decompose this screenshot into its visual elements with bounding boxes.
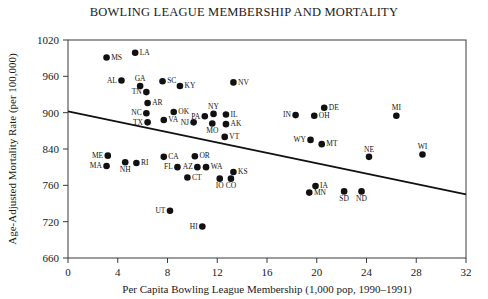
x-axis-tick-label: 0 [65,266,71,278]
data-point-NV[interactable] [230,79,237,86]
data-point-NE[interactable] [366,154,373,161]
data-point-AZ[interactable] [194,164,201,171]
data-point-label-TX: TX [133,118,144,127]
data-point-label-PA: PA [191,112,200,121]
data-point-MA[interactable] [103,163,110,170]
x-axis-tick-label: 28 [411,266,423,278]
data-point-label-MN: MN [314,188,327,197]
data-point-label-FL: FL [164,162,173,171]
data-point-OH[interactable] [311,112,318,119]
data-point-WA[interactable] [203,164,210,171]
data-point-label-AK: AK [231,119,242,128]
data-point-label-NY: NY [208,102,219,111]
data-point-label-WA: WA [211,162,223,171]
data-point-MT[interactable] [318,141,325,148]
y-axis-tick-label: 840 [43,143,60,155]
data-point-WI[interactable] [419,151,426,158]
plot-frame [68,40,466,258]
data-point-label-OK: OK [178,107,189,116]
data-point-label-CT: CT [192,173,202,182]
data-point-label-OR: OR [199,151,209,160]
data-point-LA[interactable] [132,49,139,56]
data-point-NJ[interactable] [190,119,197,126]
data-point-CT[interactable] [184,174,191,181]
chart-figure: BOWLING LEAGUE MEMBERSHIP AND MORTALITY … [0,0,488,299]
data-point-label-ND: ND [356,194,367,203]
data-point-IN[interactable] [292,112,299,119]
data-point-VA[interactable] [160,117,167,124]
data-point-label-WI: WI [418,142,428,151]
x-axis-tick-label: 12 [212,266,223,278]
y-axis-tick-label: 760 [43,179,60,191]
data-point-label-HI: HI [190,222,198,231]
x-axis-title: Per Capita Bowling League Membership (1,… [122,283,412,296]
data-point-label-MT: MT [326,139,338,148]
data-point-PA[interactable] [202,113,209,120]
data-point-IL[interactable] [223,111,230,118]
data-point-label-MA: MA [90,161,103,170]
data-point-label-IL: IL [231,110,238,119]
data-point-KS[interactable] [230,169,237,176]
data-point-AL[interactable] [118,77,125,84]
data-point-label-GA: GA [135,74,146,83]
data-point-label-DE: DE [329,103,339,112]
data-point-label-RI: RI [141,158,149,167]
data-point-label-ME: ME [92,151,104,160]
regression-trend-line [68,111,466,194]
data-point-VT[interactable] [221,134,228,141]
data-point-MN[interactable] [306,189,313,196]
data-point-TX[interactable] [144,119,151,126]
x-axis-tick-label: 32 [461,266,472,278]
data-point-label-AZ: AZ [183,162,193,171]
data-point-label-MS: MS [111,53,122,62]
data-point-MS[interactable] [103,54,110,61]
data-point-label-CO: CO [226,181,237,190]
data-point-FL[interactable] [174,164,181,171]
data-point-NY[interactable] [210,111,217,118]
y-axis-tick-label: 900 [43,107,60,119]
data-point-label-WY: WY [293,135,306,144]
data-point-AR[interactable] [144,100,151,107]
scatter-plot: Per Capita Bowling League Membership (1,… [0,0,488,299]
y-axis-tick-label: 960 [43,70,60,82]
data-point-label-KS: KS [238,167,248,176]
data-point-label-OH: OH [319,111,330,120]
data-point-label-IO: IO [216,181,224,190]
data-point-label-VT: VT [229,132,239,141]
data-point-label-CA: CA [168,152,179,161]
data-point-label-KY: KY [185,81,196,90]
data-point-SC[interactable] [159,78,166,85]
data-point-label-NH: NH [120,165,131,174]
data-point-UT[interactable] [167,207,174,214]
x-axis-tick-label: 24 [361,266,373,278]
data-point-label-NJ: NJ [181,118,189,127]
data-point-OR[interactable] [192,153,199,160]
data-point-KY[interactable] [177,83,184,90]
data-point-label-IN: IN [283,110,291,119]
data-point-AK[interactable] [223,121,230,128]
y-axis-tick-label: 1020 [37,34,60,46]
data-point-ME[interactable] [105,152,112,159]
data-point-MI[interactable] [393,112,400,119]
data-point-label-AL: AL [107,76,117,85]
data-point-label-LA: LA [140,48,151,57]
data-point-label-SC: SC [167,76,176,85]
data-point-label-TN: TN [132,87,143,96]
y-axis-tick-label: 660 [43,252,60,264]
data-point-WY[interactable] [307,137,314,144]
data-point-RI[interactable] [133,160,140,167]
data-point-NC[interactable] [143,110,150,117]
data-point-label-NE: NE [364,145,374,154]
x-axis-tick-label: 8 [165,266,171,278]
data-point-label-MO: MO [206,126,219,135]
data-point-label-NV: NV [238,78,249,87]
data-point-CA[interactable] [160,154,167,161]
x-axis-tick-label: 4 [115,266,121,278]
data-point-TN[interactable] [143,89,150,96]
data-point-label-NC: NC [131,108,141,117]
data-point-label-VA: VA [168,115,178,124]
x-axis-tick-label: 20 [311,266,323,278]
x-axis-tick-label: 16 [262,266,274,278]
data-point-label-MI: MI [392,103,402,112]
data-point-HI[interactable] [199,223,206,230]
